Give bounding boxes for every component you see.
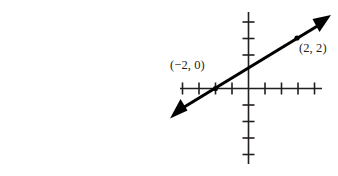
line-arrow-end [313, 15, 332, 32]
point-marker--2-0 [213, 86, 218, 91]
coordinate-plane-svg [0, 0, 338, 176]
point-label-2-2: (2, 2) [299, 42, 327, 55]
line-arrow-start [170, 99, 188, 119]
point-marker-2-2 [294, 35, 299, 40]
graph-figure: (−2, 0) (2, 2) [0, 0, 338, 176]
point-label--2-0: (−2, 0) [170, 59, 205, 72]
